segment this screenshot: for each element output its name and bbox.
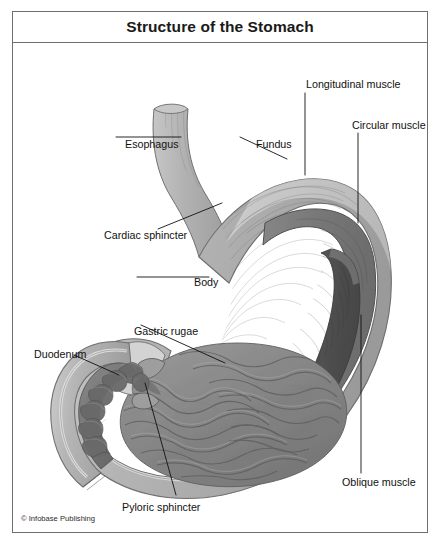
label-longitudinal-muscle: Longitudinal muscle <box>306 79 400 90</box>
label-duodenum: Duodenum <box>34 349 86 360</box>
label-gastric-rugae: Gastric rugae <box>134 326 198 337</box>
stomach-anatomy-figure: Structure of the Stomach <box>0 0 443 552</box>
label-esophagus: Esophagus <box>125 139 178 150</box>
label-cardiac-sphincter: Cardiac sphincter <box>104 230 187 241</box>
label-pyloric-sphincter: Pyloric sphincter <box>122 502 200 513</box>
label-fundus: Fundus <box>256 139 292 150</box>
page-title: Structure of the Stomach <box>126 18 314 36</box>
label-oblique-muscle: Oblique muscle <box>342 477 416 488</box>
label-body: Body <box>194 277 218 288</box>
figure-title-bar: Structure of the Stomach <box>13 12 427 43</box>
label-circular-muscle: Circular muscle <box>352 120 426 131</box>
illustration-canvas: Esophagus Fundus Longitudinal muscle Cir… <box>13 43 427 533</box>
stomach-illustration <box>13 43 427 533</box>
figure-frame: Structure of the Stomach <box>12 11 428 533</box>
publisher-credit: © Infobase Publishing <box>21 514 95 523</box>
